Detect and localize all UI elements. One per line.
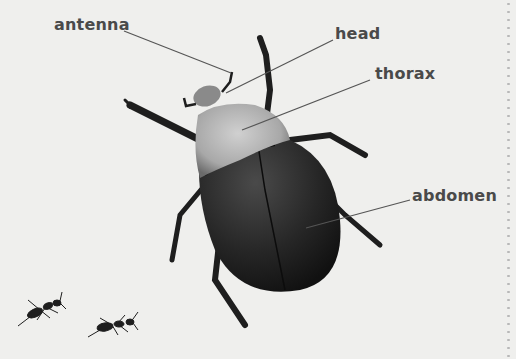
label-abdomen: abdomen	[412, 186, 497, 205]
label-head: head	[335, 24, 380, 43]
ant-2	[88, 312, 138, 337]
textbook-page: antenna head thorax abdomen	[0, 0, 516, 359]
beetle-head	[190, 82, 223, 110]
label-antenna: antenna	[54, 15, 130, 34]
ant-1	[18, 292, 66, 326]
beetle-illustration	[0, 0, 516, 359]
label-thorax: thorax	[375, 64, 435, 83]
